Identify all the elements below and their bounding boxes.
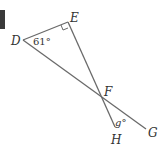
label-E: E [69, 11, 79, 25]
label-D: D [10, 34, 21, 48]
label-F: F [103, 85, 113, 99]
geometry-diagram: D E F G H 61° g° [0, 0, 162, 153]
label-H: H [110, 133, 122, 147]
label-G: G [148, 126, 158, 140]
angle-D-value: 61° [33, 36, 51, 47]
right-angle-marker [61, 25, 68, 30]
angle-g-value: g° [115, 117, 126, 128]
segment-DG [23, 40, 146, 129]
segment-EH [68, 22, 115, 127]
